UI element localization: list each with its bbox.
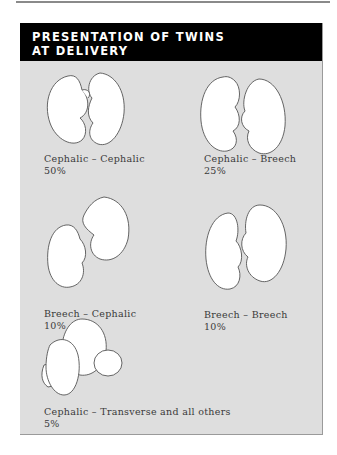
title-line-2: AT DELIVERY — [32, 44, 225, 58]
top-rule — [16, 1, 330, 3]
panel-title: PRESENTATION OF TWINS AT DELIVERY — [32, 30, 225, 58]
twins-breech-breech-illustration — [198, 201, 298, 300]
presentation-label: Cephalic – Breech — [204, 153, 296, 165]
presentation-percent: 10% — [204, 321, 288, 333]
caption-cephalic-transverse: Cephalic – Transverse and all others 5% — [44, 406, 231, 430]
presentation-percent: 50% — [44, 165, 145, 177]
caption-breech-breech: Breech – Breech 10% — [204, 309, 288, 333]
presentation-percent: 25% — [204, 165, 296, 177]
title-banner: PRESENTATION OF TWINS AT DELIVERY — [20, 23, 322, 61]
twins-presentation-panel: PRESENTATION OF TWINS AT DELIVERY Cephal… — [20, 23, 323, 435]
presentation-label: Cephalic – Transverse and all others — [44, 406, 231, 418]
twins-breech-cephalic-illustration — [42, 193, 142, 297]
caption-cephalic-cephalic: Cephalic – Cephalic 50% — [44, 153, 145, 177]
title-line-1: PRESENTATION OF TWINS — [32, 30, 225, 44]
presentation-label: Breech – Breech — [204, 309, 288, 321]
twins-cephalic-breech-illustration — [195, 71, 295, 165]
caption-cephalic-breech: Cephalic – Breech 25% — [204, 153, 296, 177]
presentation-label: Cephalic – Cephalic — [44, 153, 145, 165]
twins-cephalic-transverse-illustration — [30, 315, 130, 404]
presentation-percent: 5% — [44, 418, 231, 430]
twins-cephalic-cephalic-illustration — [38, 68, 138, 157]
